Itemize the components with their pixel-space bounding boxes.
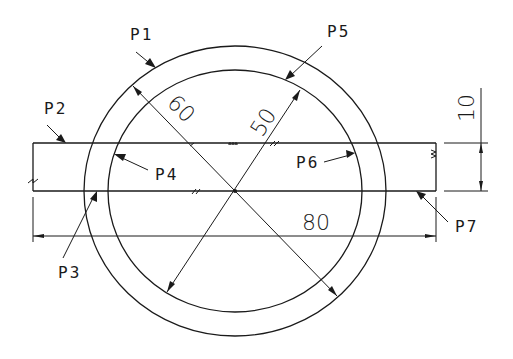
svg-text:P2: P2	[44, 99, 67, 118]
svg-text:P4: P4	[155, 165, 178, 184]
center-point	[233, 189, 237, 193]
strip-rectangle	[33, 143, 436, 191]
engineering-drawing: 80 10 60 50 P1 P2 P3	[0, 0, 513, 359]
dimension-10-label: 10	[454, 94, 479, 122]
break-marks	[28, 141, 436, 194]
svg-text:P6: P6	[296, 153, 319, 172]
label-p4: P4	[114, 154, 178, 184]
dimension-80: 80	[33, 197, 436, 242]
svg-text:P7: P7	[455, 217, 478, 236]
svg-text:P1: P1	[130, 25, 153, 44]
dimension-50-label: 50	[245, 104, 281, 141]
dimension-80-label: 80	[302, 210, 330, 235]
label-p5: P5	[285, 22, 350, 80]
label-p6: P6	[296, 150, 355, 172]
label-p2: P2	[44, 99, 67, 143]
label-p7: P7	[416, 191, 478, 236]
svg-text:P5: P5	[327, 22, 350, 41]
svg-text:P3: P3	[58, 263, 81, 282]
label-p1: P1	[130, 25, 156, 68]
dimension-10: 10	[444, 88, 488, 191]
